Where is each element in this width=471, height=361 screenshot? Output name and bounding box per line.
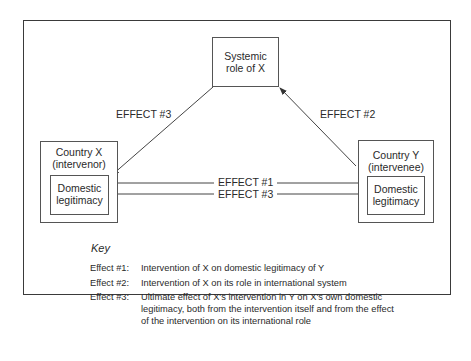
key-item-3-label: Effect #3:	[90, 291, 141, 327]
key-item-1-text: Intervention of X on domestic legitimacy…	[141, 262, 401, 274]
key-item-1-label: Effect #1:	[90, 262, 141, 274]
key-item-2-label: Effect #2:	[90, 277, 141, 289]
effect2-diag-label: EFFECT #2	[320, 108, 375, 120]
country-y-legitimacy-box: Domestic legitimacy	[367, 176, 425, 215]
key-item-2-text: Intervention of X on its role in interna…	[141, 277, 401, 289]
country-x-label: Country X	[41, 146, 117, 158]
key-item-2: Effect #2: Intervention of X on its role…	[90, 277, 401, 289]
country-x-role: (intervenor)	[41, 158, 117, 170]
arrow-effect3-diag	[112, 87, 213, 175]
country-x-legitimacy-box: Domestic legitimacy	[50, 175, 109, 215]
systemic-label-2: role of X	[213, 62, 278, 74]
x-legitimacy-label: Domestic	[51, 182, 108, 194]
country-y-role: (intervenee)	[359, 161, 433, 173]
effect3-horiz-label: EFFECT #3	[214, 188, 277, 200]
key-title: Key	[91, 242, 110, 254]
y-legitimacy-label: Domestic	[368, 183, 424, 195]
key-item-1: Effect #1: Intervention of X on domestic…	[90, 262, 401, 274]
x-legitimacy-label-2: legitimacy	[51, 194, 108, 206]
key-item-3-text: Ultimate effect of X's intervention in Y…	[141, 291, 401, 327]
systemic-role-box: Systemic role of X	[212, 37, 279, 87]
effect3-diag-label: EFFECT #3	[116, 108, 171, 120]
effect1-label: EFFECT #1	[214, 176, 277, 188]
key-item-3: Effect #3: Ultimate effect of X's interv…	[90, 291, 401, 327]
arrow-effect2-diag	[280, 88, 356, 166]
y-legitimacy-label-2: legitimacy	[368, 195, 424, 207]
systemic-label: Systemic	[213, 50, 278, 62]
country-y-label: Country Y	[359, 149, 433, 161]
